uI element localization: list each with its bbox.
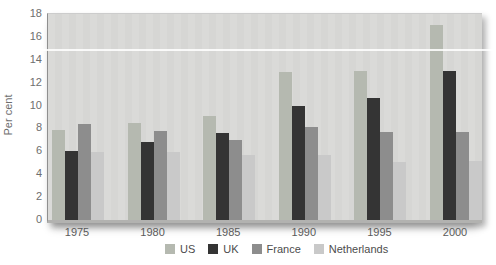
bar-us-2000 <box>430 25 443 220</box>
legend-item-us: US <box>165 243 195 255</box>
legend-label-france: France <box>267 243 301 255</box>
legend: USUKFranceNetherlands <box>165 243 388 255</box>
legend-swatch-france <box>252 244 262 254</box>
bar-us-1990 <box>279 72 292 220</box>
bar-uk-2000 <box>443 71 456 220</box>
legend-swatch-uk <box>208 244 218 254</box>
x-tick-1975: 1975 <box>65 226 89 238</box>
x-tick-1980: 1980 <box>140 226 164 238</box>
y-tick-10: 10 <box>0 99 42 111</box>
bar-us-1995 <box>354 71 367 220</box>
bar-france-1995 <box>380 132 393 220</box>
bar-uk-1975 <box>65 151 78 220</box>
x-tick-1995: 1995 <box>367 226 391 238</box>
legend-item-uk: UK <box>208 243 238 255</box>
bar-uk-1995 <box>367 98 380 220</box>
bar-france-2000 <box>456 132 469 220</box>
bar-us-1980 <box>128 123 141 220</box>
bar-netherlands-2000 <box>469 161 482 221</box>
y-tick-0: 0 <box>0 213 42 225</box>
bar-france-1975 <box>78 124 91 220</box>
bar-netherlands-1985 <box>242 155 255 220</box>
y-tick-14: 14 <box>0 53 42 65</box>
y-tick-8: 8 <box>0 121 42 133</box>
plot-area <box>47 13 482 223</box>
legend-label-uk: UK <box>223 243 238 255</box>
x-tick-2000: 2000 <box>443 226 467 238</box>
legend-swatch-netherlands <box>314 244 324 254</box>
y-tick-2: 2 <box>0 190 42 202</box>
x-tick-1985: 1985 <box>216 226 240 238</box>
y-tick-12: 12 <box>0 76 42 88</box>
bar-netherlands-1980 <box>167 152 180 220</box>
y-tick-6: 6 <box>0 144 42 156</box>
legend-swatch-us <box>165 244 175 254</box>
bar-us-1975 <box>52 130 65 220</box>
bar-us-1985 <box>203 116 216 220</box>
chart-figure: Per cent 024681012141618 197519801985199… <box>0 0 496 265</box>
bar-netherlands-1990 <box>318 155 331 220</box>
bar-netherlands-1995 <box>393 162 406 220</box>
bar-france-1990 <box>305 127 318 220</box>
legend-label-netherlands: Netherlands <box>329 243 388 255</box>
x-tick-1990: 1990 <box>292 226 316 238</box>
y-tick-18: 18 <box>0 7 42 19</box>
bar-france-1980 <box>154 131 167 220</box>
y-tick-16: 16 <box>0 30 42 42</box>
bar-uk-1990 <box>292 106 305 220</box>
legend-item-france: France <box>252 243 301 255</box>
legend-item-netherlands: Netherlands <box>314 243 388 255</box>
y-tick-4: 4 <box>0 167 42 179</box>
legend-label-us: US <box>180 243 195 255</box>
bar-uk-1985 <box>216 133 229 220</box>
bar-france-1985 <box>229 140 242 220</box>
bar-netherlands-1975 <box>91 152 104 220</box>
bar-uk-1980 <box>141 142 154 220</box>
